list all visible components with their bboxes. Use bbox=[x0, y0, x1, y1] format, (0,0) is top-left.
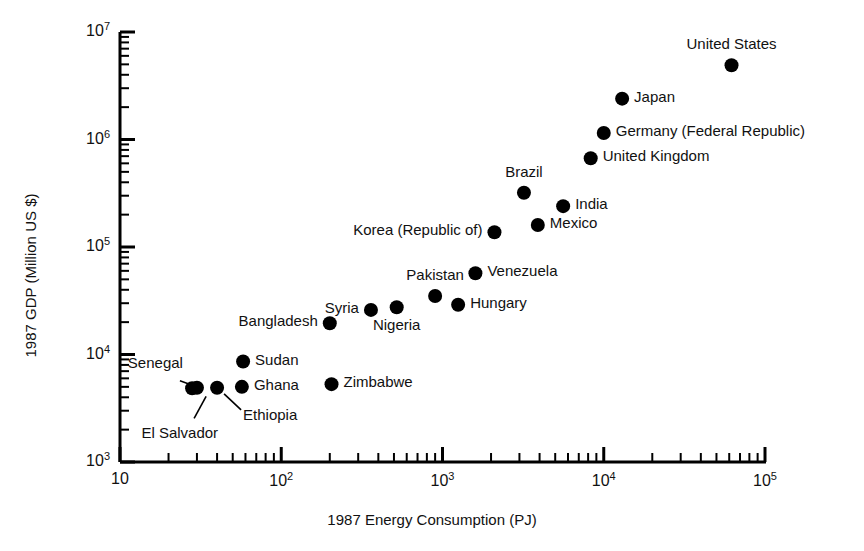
x-tick-label: 10 bbox=[98, 470, 142, 488]
data-point bbox=[615, 92, 629, 106]
data-point-label: Brazil bbox=[505, 163, 543, 180]
data-point-label: United States bbox=[686, 35, 776, 52]
data-point-label: Ethiopia bbox=[243, 406, 297, 423]
data-point-label: Korea (Republic of) bbox=[353, 221, 482, 238]
y-axis-ticks bbox=[120, 32, 135, 462]
data-point bbox=[325, 377, 339, 391]
data-point bbox=[364, 303, 378, 317]
data-point bbox=[517, 186, 531, 200]
data-point bbox=[556, 199, 570, 213]
data-point-label: United Kingdom bbox=[603, 147, 710, 164]
data-point bbox=[185, 381, 199, 395]
x-axis-ticks bbox=[120, 447, 765, 462]
data-point-label: Mexico bbox=[550, 214, 598, 231]
data-point bbox=[597, 126, 611, 140]
y-tick-label: 105 bbox=[62, 235, 110, 255]
data-point bbox=[487, 225, 501, 239]
data-point-label: Ghana bbox=[254, 376, 299, 393]
data-point-label: Venezuela bbox=[487, 262, 557, 279]
data-point bbox=[584, 151, 598, 165]
data-point-label: Zimbabwe bbox=[344, 373, 413, 390]
data-point-label: Bangladesh bbox=[239, 312, 318, 329]
x-tick-label: 102 bbox=[259, 470, 303, 490]
data-point bbox=[451, 298, 465, 312]
data-point bbox=[235, 380, 249, 394]
y-tick-label: 106 bbox=[62, 128, 110, 148]
data-point bbox=[236, 355, 250, 369]
y-tick-label: 107 bbox=[62, 20, 110, 40]
x-tick-label: 104 bbox=[582, 470, 626, 490]
y-axis-title: 1987 GDP (Million US $) bbox=[22, 126, 39, 426]
data-point bbox=[468, 266, 482, 280]
data-point-label: Sudan bbox=[255, 351, 298, 368]
data-point-label: India bbox=[575, 195, 608, 212]
data-point bbox=[531, 218, 545, 232]
y-tick-label: 104 bbox=[62, 343, 110, 363]
x-tick-label: 103 bbox=[421, 470, 465, 490]
y-tick-label: 103 bbox=[62, 450, 110, 470]
data-point-label: Nigeria bbox=[373, 316, 421, 333]
data-point-label: Senegal bbox=[128, 354, 183, 371]
x-axis-title: 1987 Energy Consumption (PJ) bbox=[0, 511, 864, 528]
data-point bbox=[210, 381, 224, 395]
data-point-label: Germany (Federal Republic) bbox=[616, 122, 805, 139]
data-point-label: Japan bbox=[634, 88, 675, 105]
data-point-label: El Salvador bbox=[141, 424, 218, 441]
data-point-label: Hungary bbox=[470, 294, 527, 311]
data-point bbox=[428, 289, 442, 303]
x-tick-label: 105 bbox=[743, 470, 787, 490]
data-point bbox=[725, 58, 739, 72]
data-point bbox=[390, 300, 404, 314]
data-point-label: Pakistan bbox=[406, 266, 464, 283]
data-point bbox=[323, 316, 337, 330]
data-point-label: Syria bbox=[325, 299, 359, 316]
leader-line bbox=[194, 396, 206, 418]
leader-line bbox=[224, 394, 241, 410]
